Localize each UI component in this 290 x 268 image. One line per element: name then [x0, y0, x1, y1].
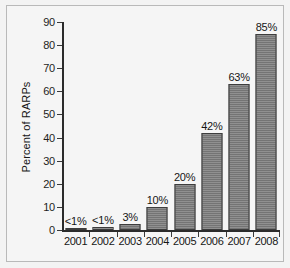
x-tick-label: 2008 [255, 235, 278, 247]
x-tick-label: 2007 [227, 235, 250, 247]
plot-area: 0102030405060708090 <1%2001<1%20023%2003… [62, 22, 280, 232]
bar[interactable]: <1% [92, 227, 113, 230]
y-tick-mark [57, 230, 62, 231]
y-tick-label: 70 [43, 62, 55, 74]
x-tick-label: 2003 [118, 235, 141, 247]
bar[interactable]: 42% [201, 133, 222, 230]
x-tick-label: 2006 [200, 235, 223, 247]
bar-group[interactable]: 85%2008 [253, 22, 280, 230]
bar[interactable]: 63% [229, 84, 250, 230]
bar-value-label: <1% [65, 215, 87, 227]
bar-value-label: 20% [174, 171, 195, 183]
x-tick-label: 2001 [64, 235, 87, 247]
bar-group[interactable]: 10%2004 [144, 22, 171, 230]
x-tick-label: 2004 [146, 235, 169, 247]
y-tick-label: 0 [49, 224, 55, 236]
x-tick-mark [144, 232, 145, 237]
bar[interactable]: 85% [256, 34, 277, 230]
bar-value-label: 10% [147, 194, 168, 206]
y-tick-label: 10 [43, 201, 55, 213]
bar-group[interactable]: 20%2005 [171, 22, 198, 230]
bar-value-label: 3% [122, 211, 138, 223]
bar[interactable]: 10% [147, 207, 168, 230]
x-tick-mark [89, 232, 90, 237]
bar-value-label: 63% [228, 71, 249, 83]
bar-group[interactable]: 63%2007 [226, 22, 253, 230]
bar-group[interactable]: <1%2002 [89, 22, 116, 230]
x-tick-mark [117, 232, 118, 237]
bar-group[interactable]: 42%2006 [198, 22, 225, 230]
y-tick-label: 40 [43, 132, 55, 144]
bar-group[interactable]: <1%2001 [62, 22, 89, 230]
x-tick-mark [171, 232, 172, 237]
x-tick-label: 2002 [91, 235, 114, 247]
y-tick-label: 90 [43, 16, 55, 28]
bar-value-label: 85% [256, 21, 277, 33]
x-tick-label: 2005 [173, 235, 196, 247]
y-tick-label: 50 [43, 108, 55, 120]
x-tick-mark [253, 232, 254, 237]
bar[interactable]: <1% [65, 228, 86, 230]
x-tick-mark [279, 232, 280, 237]
y-axis-title-container: Percent of RARPs [14, 22, 30, 232]
bar-value-label: <1% [92, 214, 114, 226]
y-tick-label: 30 [43, 155, 55, 167]
bar[interactable]: 20% [174, 184, 195, 230]
y-tick-label: 20 [43, 178, 55, 190]
figure-canvas: Percent of RARPs 0102030405060708090 <1%… [0, 0, 290, 268]
x-tick-mark [198, 232, 199, 237]
bar-group[interactable]: 3%2003 [117, 22, 144, 230]
x-tick-mark [226, 232, 227, 237]
bar[interactable]: 3% [120, 224, 141, 230]
y-axis-title: Percent of RARPs [20, 22, 36, 232]
bar-value-label: 42% [201, 120, 222, 132]
y-tick-label: 60 [43, 85, 55, 97]
y-tick-label: 80 [43, 39, 55, 51]
